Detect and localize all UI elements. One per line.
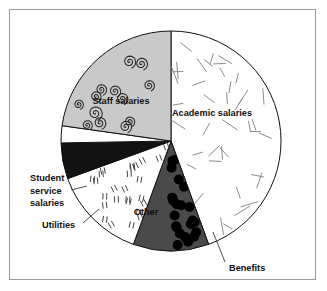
pie-label-staff-salaries: Staff salaries — [92, 96, 149, 106]
pie-label-line: service — [30, 186, 62, 196]
pie-label-utilities: Utilities — [42, 220, 75, 230]
pie-label-line: Student — [30, 173, 64, 183]
pie-label-line: salaries — [30, 198, 64, 208]
pie-label-student-service-salaries: Studentservicesalaries — [30, 173, 64, 208]
pie-label-benefits: Benefits — [229, 263, 265, 273]
figure-container: Academic salariesBenefitsOtherUtilitiesS… — [0, 0, 327, 291]
pie-chart: Academic salariesBenefitsOtherUtilitiesS… — [0, 0, 327, 291]
pie-label-other: Other — [134, 207, 159, 217]
pie-label-academic-salaries: Academic salaries — [172, 108, 252, 118]
